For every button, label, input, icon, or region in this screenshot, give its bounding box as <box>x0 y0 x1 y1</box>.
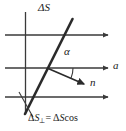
inclined-surface-line <box>25 19 73 114</box>
equation-cos: cos <box>65 112 78 123</box>
physics-vector-diagram: ΔS α a n ΔS⊥= ΔScos <box>0 0 126 131</box>
normal-vector-arrow <box>47 68 84 84</box>
label-normal-n: n <box>90 77 96 88</box>
equation-equals: = <box>45 112 51 123</box>
label-delta-s: ΔS <box>38 2 50 13</box>
label-projection-equation: ΔS⊥= ΔScos <box>28 113 78 125</box>
angle-arc <box>71 68 73 79</box>
label-alpha-angle: α <box>64 46 70 57</box>
label-axis-a: a <box>113 60 119 71</box>
